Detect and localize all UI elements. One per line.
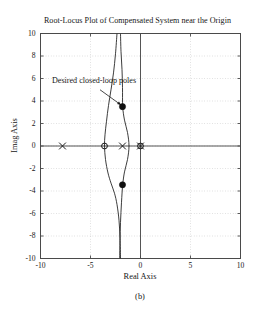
desired-closed-loop-pole-marker	[119, 104, 125, 110]
x-tick-label: -5	[76, 261, 106, 270]
y-tick-label: -2	[14, 164, 36, 173]
figure-caption: (b)	[40, 292, 240, 301]
x-tick-label: -10	[26, 261, 56, 270]
y-tick-label: 4	[14, 96, 36, 105]
y-tick-label: 2	[14, 119, 36, 128]
x-tick-label: 0	[126, 261, 156, 270]
x-axis-label: Real Axis	[40, 272, 240, 281]
y-tick-label: -4	[14, 186, 36, 195]
y-tick-label: 8	[14, 51, 36, 60]
y-axis-label: Imag Axis	[10, 106, 19, 166]
y-tick-label: -8	[14, 231, 36, 240]
y-tick-label: 0	[14, 141, 36, 150]
x-tick-label: 5	[176, 261, 206, 270]
annotation-desired-closed-loop-poles: Desired closed-loop poles	[52, 76, 136, 85]
y-tick-label: -6	[14, 209, 36, 218]
y-tick-label: 10	[14, 29, 36, 38]
desired-closed-loop-pole-marker	[119, 182, 125, 188]
root-locus-figure: Root-Locus Plot of Compensated System ne…	[0, 0, 275, 316]
x-tick-label: 10	[226, 261, 256, 270]
y-tick-label: 6	[14, 74, 36, 83]
